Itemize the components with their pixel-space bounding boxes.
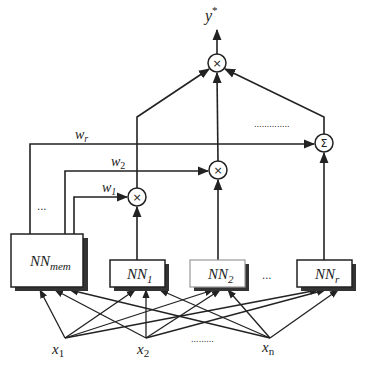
top-product-node: × — [208, 54, 226, 72]
multiply-icon: × — [212, 57, 221, 70]
nn-mem-box: NNmem — [11, 234, 88, 291]
branch-2-connector — [217, 73, 218, 161]
multiply-icon: × — [213, 164, 222, 177]
weight-1-line — [74, 197, 127, 234]
product-1-node: × — [128, 188, 146, 206]
nnr-box: NNr — [297, 260, 356, 291]
networks-ellipsis: ... — [262, 270, 272, 281]
input-xn-label: xn — [261, 339, 275, 357]
branch-1-connector — [137, 69, 209, 188]
sum-node: Σ — [315, 134, 333, 152]
multiply-icon: × — [132, 191, 141, 204]
input-connections — [40, 290, 338, 338]
weight-r-line — [30, 144, 314, 234]
nn2-box: NN2 — [190, 260, 249, 291]
weights-ellipsis: ... — [37, 201, 47, 212]
nn1-box: NN1 — [110, 260, 169, 291]
inputs-ellipsis: ......... — [191, 335, 214, 344]
output-label: y* — [203, 4, 218, 25]
product-2-node: × — [209, 161, 227, 179]
input-x2-label: x2 — [136, 341, 149, 359]
weight-2-label: w2 — [111, 154, 125, 171]
sigma-icon: Σ — [321, 137, 328, 150]
weight-r-label: wr — [75, 127, 88, 144]
sum-ellipsis: .............. — [254, 120, 290, 129]
weight-1-label: w1 — [102, 180, 116, 197]
input-x1-label: x1 — [51, 341, 64, 359]
mixture-network-diagram: × × × Σ NNmem NN1 NN2 NNr y* wr w2 w1 x1… — [0, 0, 369, 365]
